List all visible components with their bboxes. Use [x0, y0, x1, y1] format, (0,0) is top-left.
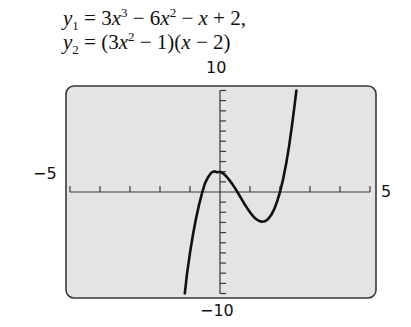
- graph-screen: [0, 0, 411, 327]
